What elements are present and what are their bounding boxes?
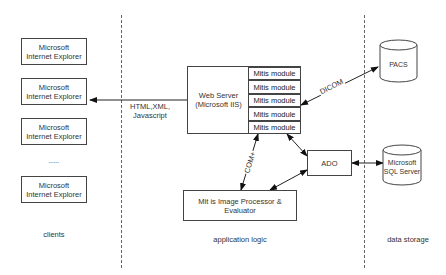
client-label-line1: Microsoft [39, 181, 69, 190]
mitis-module: Mitis module [248, 107, 301, 121]
sql-label-line2: SQL Server [384, 168, 420, 175]
client-label-line2: Internet Explorer [26, 132, 81, 141]
processor-ado-arrow [270, 170, 307, 190]
http-edge-label-line2: Javascript [133, 111, 167, 120]
client-browser-box: MicrosoftInternet Explorer [21, 38, 87, 65]
client-browser-box: MicrosoftInternet Explorer [21, 118, 87, 145]
client-label-line2: Internet Explorer [26, 92, 81, 101]
http-edge-label-line1: HTML,XML, [130, 102, 170, 111]
http-edge-label: HTML,XML, Javascript [120, 102, 180, 120]
processor-label-line2: Evaluator [224, 206, 256, 215]
ado-box: ADO [307, 150, 352, 176]
client-browser-box: MicrosoftInternet Explorer [21, 78, 87, 105]
sql-label-line1: Microsoft [388, 159, 416, 166]
client-label-line2: Internet Explorer [26, 190, 81, 199]
client-label-line2: Internet Explorer [26, 52, 81, 61]
zone-label-application-logic: application logic [200, 235, 280, 244]
clients-ellipsis: ..... [44, 156, 64, 165]
client-label-line1: Microsoft [39, 43, 69, 52]
module-ado-arrow [287, 134, 307, 156]
zone-label-data-storage: data storage [378, 235, 438, 244]
mitis-module: Mitis module [248, 94, 301, 107]
pacs-label: PACS [380, 60, 417, 69]
processor-label-line1: Mit is Image Processor & [198, 197, 281, 206]
zone-label-clients: clients [34, 230, 74, 239]
mitis-module: Mitis module [248, 80, 301, 94]
image-processor-box: Mit is Image Processor &Evaluator [183, 190, 297, 221]
web-server-subtitle: (Microsoft IIS) [195, 100, 242, 109]
web-server-title: Web Server [199, 91, 238, 100]
mitis-module: Mitis module [248, 67, 301, 80]
client-browser-box: MicrosoftInternet Explorer [21, 176, 87, 203]
client-label-line1: Microsoft [39, 123, 69, 132]
client-label-line1: Microsoft [39, 83, 69, 92]
sql-server-label: Microsoft SQL Server [383, 158, 421, 176]
mitis-module: Mitis module [248, 121, 301, 134]
